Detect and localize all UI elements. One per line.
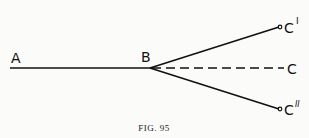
label-c: C: [287, 61, 297, 77]
label-a: A: [11, 50, 21, 66]
figure-caption: FIG. 95: [138, 123, 170, 133]
figure-diagram: A B C C I C II FIG. 95: [0, 0, 309, 138]
label-c-double-prime-mark: II: [295, 100, 300, 109]
point-c-double-prime-marker: [278, 107, 282, 111]
segment-bc-prime: [150, 27, 279, 68]
point-c-prime-marker: [278, 25, 282, 29]
label-b: B: [141, 49, 151, 65]
label-c-prime-mark: I: [296, 16, 299, 26]
label-c-prime: C: [284, 20, 294, 36]
label-c-double-prime: C: [284, 102, 294, 118]
segment-bc-double-prime: [150, 68, 279, 109]
